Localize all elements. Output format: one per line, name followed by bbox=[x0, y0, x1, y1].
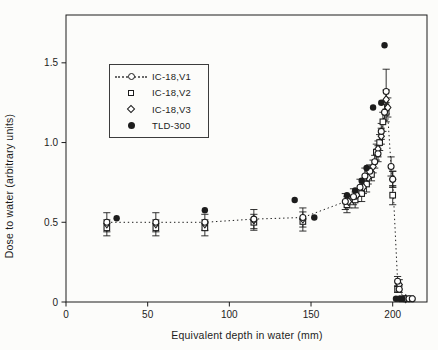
legend-label: IC-18,V1 bbox=[152, 71, 191, 82]
legend-marker-area bbox=[115, 119, 147, 131]
open-diamond-icon bbox=[127, 105, 135, 113]
point-TLD-300 bbox=[399, 296, 405, 302]
legend-label: TLD-300 bbox=[152, 120, 190, 131]
y-tick-label: 0.5 bbox=[44, 217, 58, 228]
open-square-icon bbox=[128, 90, 134, 96]
point-IC-18,V1 bbox=[372, 159, 378, 165]
point-IC-18,V2 bbox=[377, 140, 383, 146]
legend-label: IC-18,V3 bbox=[152, 104, 191, 115]
point-TLD-300 bbox=[113, 215, 119, 221]
point-IC-18,V1 bbox=[409, 296, 415, 302]
x-tick-label: 100 bbox=[221, 309, 238, 320]
point-IC-18,V1 bbox=[202, 219, 208, 225]
filled-circle-icon bbox=[128, 122, 135, 129]
point-IC-18,V1 bbox=[375, 151, 381, 157]
point-IC-18,V1 bbox=[300, 214, 306, 220]
point-IC-18,V1 bbox=[342, 199, 348, 205]
y-tick-label: 0 bbox=[52, 297, 58, 308]
point-TLD-300 bbox=[291, 197, 297, 203]
point-TLD-300 bbox=[352, 187, 358, 193]
legend-item-ic18v1: IC-18,V1 bbox=[115, 69, 206, 84]
point-IC-18,V1 bbox=[350, 194, 356, 200]
point-TLD-300 bbox=[311, 214, 317, 220]
legend-item-ic18v3: IC-18,V3 bbox=[115, 102, 206, 117]
point-IC-18,V1 bbox=[395, 278, 401, 284]
point-IC-18,V1 bbox=[390, 176, 396, 182]
legend-item-ic18v2: IC-18,V2 bbox=[115, 85, 206, 100]
y-tick-label: 1.5 bbox=[44, 57, 58, 68]
point-TLD-300 bbox=[344, 192, 350, 198]
point-TLD-300 bbox=[378, 99, 384, 105]
point-TLD-300 bbox=[202, 207, 208, 213]
x-axis-label: Equivalent depth in water (mm) bbox=[171, 329, 322, 341]
plot-frame bbox=[66, 15, 427, 302]
legend-marker-area bbox=[115, 87, 147, 99]
legend-label: IC-18,V2 bbox=[152, 87, 191, 98]
x-tick-label: 0 bbox=[63, 309, 69, 320]
legend-marker-area bbox=[115, 103, 147, 115]
legend-item-tld300: TLD-300 bbox=[115, 118, 206, 133]
point-TLD-300 bbox=[358, 178, 364, 184]
point-IC-18,V1 bbox=[378, 128, 384, 134]
point-IC-18,V2 bbox=[390, 192, 396, 198]
open-circle-icon bbox=[128, 73, 135, 80]
legend-box: IC-18,V1 IC-18,V2 IC-18,V3 TLD-300 bbox=[109, 64, 209, 138]
point-IC-18,V1 bbox=[396, 286, 402, 292]
x-tick-label: 50 bbox=[142, 309, 154, 320]
point-TLD-300 bbox=[363, 165, 369, 171]
point-IC-18,V1 bbox=[382, 109, 388, 115]
point-IC-18,V1 bbox=[383, 89, 389, 95]
legend-marker-area bbox=[115, 71, 147, 83]
point-TLD-300 bbox=[381, 42, 387, 48]
point-IC-18,V1 bbox=[104, 219, 110, 225]
y-tick-label: 1.0 bbox=[44, 137, 58, 148]
x-tick-label: 150 bbox=[303, 309, 320, 320]
x-tick-label: 200 bbox=[384, 309, 401, 320]
depth-dose-figure: Dose to water (arbitrary units) 05010015… bbox=[0, 0, 438, 350]
plot-canvas: 05010015020000.51.01.5 bbox=[0, 0, 438, 350]
point-IC-18,V2 bbox=[380, 119, 386, 125]
point-TLD-300 bbox=[370, 104, 376, 110]
point-IC-18,V1 bbox=[388, 163, 394, 169]
point-IC-18,V1 bbox=[251, 216, 257, 222]
point-IC-18,V1 bbox=[153, 219, 159, 225]
